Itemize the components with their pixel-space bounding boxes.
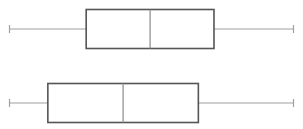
- box-plot-2: [10, 84, 294, 123]
- box-plot-1: [10, 10, 294, 49]
- box-plot-chart: [0, 0, 303, 129]
